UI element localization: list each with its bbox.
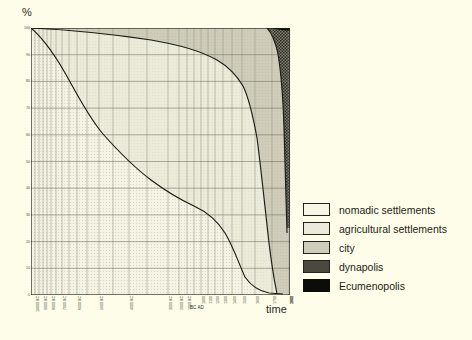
legend-item[interactable]: city [303,238,471,257]
legend: nomadic settlementsagricultural settleme… [303,200,471,295]
x-tick-label: 8000 BC [52,296,56,310]
y-tick-label: 0 [16,293,30,297]
x-tick-label: 2000 BC [180,296,184,310]
legend-swatch-icon [303,279,330,292]
x-axis-ticks: 10000 BC9000 BC8000 BC7000 BC6000 BC5000… [31,296,293,318]
x-tick-label: 10000 BC [36,296,40,312]
y-tick-label: 40 [16,186,30,190]
y-tick-label: 80 [16,79,30,83]
x-tick-label: 1700 [273,296,277,304]
legend-label: dynapolis [339,261,383,273]
x-tick-label: 1600 [256,296,260,304]
legend-item[interactable]: Ecumenopolis [303,276,471,295]
x-tick-label: 4000 BC [130,296,134,310]
y-axis-title: % [22,6,32,18]
x-tick-label: 1100 [209,296,213,304]
y-tick-label: 100 [16,26,30,30]
x-tick-label: 1500 [243,296,247,304]
legend-item[interactable]: agricultural settlements [303,219,471,238]
legend-swatch-icon [303,241,330,254]
x-tick-label: BC AD [190,305,204,310]
stacked-area-plot [31,28,290,295]
y-tick-label: 30 [16,213,30,217]
x-tick-label: 1200 [216,296,220,304]
legend-label: agricultural settlements [339,223,447,235]
y-tick-label: 60 [16,133,30,137]
x-tick-label: 2000 [290,296,294,304]
legend-item[interactable]: dynapolis [303,257,471,276]
x-tick-label: 3000 BC [169,296,173,310]
x-tick-label: 9000 BC [44,296,48,310]
y-tick-label: 90 [16,53,30,57]
plot-area [31,28,290,295]
x-tick-label: 7000 BC [63,296,67,310]
y-tick-label: 20 [16,240,30,244]
legend-label: city [339,242,355,254]
y-tick-label: 70 [16,106,30,110]
legend-swatch-icon [303,222,330,235]
ekistics-settlement-chart: % time 1009080706050403020100 10000 BC90… [0,0,472,340]
x-tick-label: 1400 [233,296,237,304]
x-tick-label: 1000 [202,296,206,304]
legend-label: nomadic settlements [339,204,435,216]
x-tick-label: 5000 BC [100,296,104,310]
legend-swatch-icon [303,260,330,273]
y-tick-label: 10 [16,266,30,270]
x-tick-label: 6000 BC [78,296,82,310]
legend-swatch-icon [303,203,330,216]
x-tick-label: 1300 [224,296,228,304]
legend-item[interactable]: nomadic settlements [303,200,471,219]
y-axis-ticks: 1009080706050403020100 [14,28,30,295]
y-tick-label: 50 [16,160,30,164]
legend-label: Ecumenopolis [339,280,405,292]
